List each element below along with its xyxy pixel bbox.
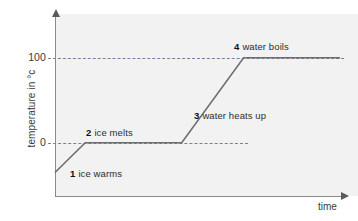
annotation-1-ice-warms: 1ice warms	[70, 168, 122, 179]
annotation-3-number: 3	[194, 110, 199, 121]
heating-curve-chart: 100 0 temperature in °c time 1ice warms …	[0, 0, 358, 221]
annotation-1-label: ice warms	[78, 168, 122, 179]
annotation-2-label: ice melts	[94, 127, 132, 138]
annotation-3-water-heats-up: 3water heats up	[194, 110, 266, 121]
annotation-1-number: 1	[70, 168, 75, 179]
annotation-3-label: water heats up	[202, 110, 266, 121]
annotation-2-ice-melts: 2ice melts	[86, 127, 133, 138]
annotation-2-number: 2	[86, 127, 91, 138]
annotation-4-water-boils: 4water boils	[234, 41, 289, 52]
heating-curve-line	[0, 0, 358, 221]
annotation-4-number: 4	[234, 41, 239, 52]
annotation-4-label: water boils	[242, 41, 289, 52]
